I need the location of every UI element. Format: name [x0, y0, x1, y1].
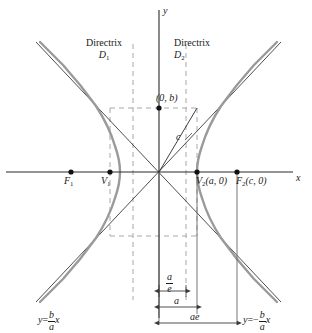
b-point-dot: [156, 105, 161, 110]
c-segment-label: c: [176, 132, 180, 143]
focus-2-dot: [234, 169, 239, 174]
vertex-2-dot: [194, 169, 199, 174]
directrix-1-symbol: D1: [75, 50, 133, 61]
dimension-drop-lines: [159, 172, 237, 325]
hyperbola-canvas: [0, 0, 312, 333]
dimension-ae-label: ae: [190, 312, 199, 323]
asymptote-positive-label: y= b a x: [38, 310, 60, 332]
focus-1-label: F1: [64, 176, 74, 187]
directrix-1-caption: Directrix: [86, 37, 122, 48]
vertex-2-label: V2(a, 0): [196, 176, 227, 187]
vertex-1-dot: [107, 169, 112, 174]
y-axis-label: y: [163, 6, 167, 17]
dimension-a-label: a: [174, 296, 179, 307]
x-axis-label: x: [296, 173, 300, 184]
dimension-a-over-e-label: a e: [166, 272, 173, 294]
directrix-2-caption: Directrix: [174, 37, 210, 48]
b-point-label: (0, b): [156, 93, 178, 104]
hyperbola-figure: y x Directrix D1 Directrix D2 (0, b) c F…: [0, 0, 312, 333]
focus-2-label: F2(c, 0): [236, 176, 267, 187]
directrix-2-symbol: D2: [174, 50, 232, 61]
a-over-e-fraction: a e: [166, 272, 173, 294]
directrix-2-label: Directrix D2: [174, 38, 232, 61]
vertex-1-label: V1: [101, 176, 111, 187]
directrix-1-label: Directrix D1: [75, 38, 133, 61]
asymptote-negative-label: y=− b a x: [243, 310, 270, 332]
focus-1-dot: [68, 169, 73, 174]
